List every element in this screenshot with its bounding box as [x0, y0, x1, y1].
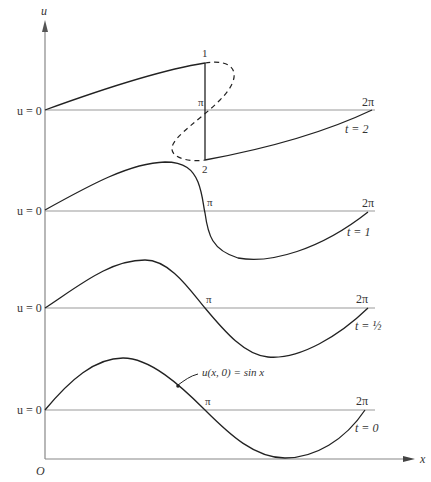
u-axis-arrow-icon [42, 20, 48, 32]
pi-label: π [206, 293, 212, 305]
two-pi-label: 2π [362, 95, 374, 109]
pi-label: π [207, 196, 213, 208]
pi-label: π [198, 96, 204, 108]
shock-bottom-label: 2 [202, 163, 208, 175]
pi-label: π [205, 395, 211, 407]
two-pi-label: 2π [356, 292, 368, 306]
time-label: t = 1 [347, 225, 370, 239]
multivalued-fold-dashed [172, 62, 234, 161]
burgers-equation-wave-diagram: u x O u = 0 1 2 π 2π t = 2 u = 0 π 2π t … [0, 0, 431, 482]
time-label: t = 2 [345, 122, 368, 136]
annotation-leader [178, 374, 198, 385]
baseline-label: u = 0 [17, 301, 42, 315]
panel-t0: u = 0 u(x, 0) = sin x π 2π t = 0 [17, 358, 378, 458]
baseline-label: u = 0 [17, 204, 42, 218]
x-axis-label: x [419, 452, 426, 466]
baseline-label: u = 0 [17, 403, 42, 417]
shock-top-label: 1 [202, 47, 208, 59]
u-axis: u [41, 4, 48, 459]
curve-annotation: u(x, 0) = sin x [202, 366, 264, 379]
panel-thalf: u = 0 π 2π t = ½ [17, 260, 381, 357]
two-pi-label: 2π [356, 394, 368, 408]
baseline-label: u = 0 [17, 104, 42, 118]
x-axis-arrow-icon [403, 456, 415, 462]
time-label: t = 0 [355, 421, 378, 435]
solution-curve-left [45, 63, 205, 110]
panel-t1: u = 0 π 2π t = 1 [17, 162, 375, 259]
annotation-dot-icon [176, 384, 180, 388]
time-label: t = ½ [355, 319, 381, 333]
panel-t2: u = 0 1 2 π 2π t = 2 [17, 47, 375, 175]
solution-curve [45, 260, 368, 357]
x-axis: x O [36, 452, 426, 478]
u-axis-label: u [41, 4, 47, 18]
origin-label: O [36, 464, 45, 478]
two-pi-label: 2π [362, 196, 374, 210]
